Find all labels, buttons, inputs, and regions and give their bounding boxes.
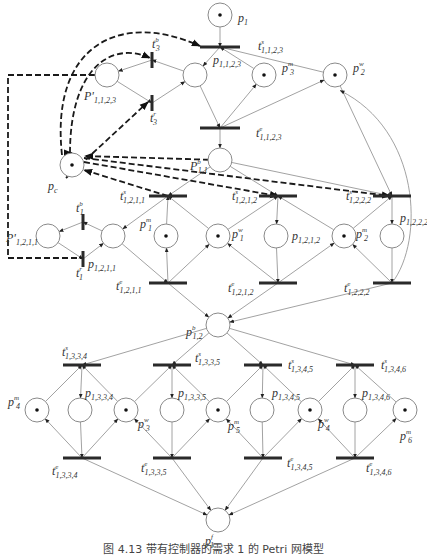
- arc-p_1123-to-te_1123: [200, 86, 220, 128]
- place-pm4: [25, 398, 49, 422]
- label-p1: p1: [237, 11, 248, 27]
- arc-pw3-to-ts_1335: [135, 365, 172, 402]
- arc-te_1334-to-pm4: [45, 419, 82, 458]
- arc-tr3-to-p_1123: [152, 82, 185, 103]
- place-circle: [264, 224, 288, 248]
- token-dot: [308, 408, 312, 412]
- place-pf1: [206, 508, 230, 532]
- place-circle: [343, 398, 367, 422]
- arc-pm5-to-ts_1345: [226, 365, 263, 402]
- token-dot: [124, 408, 128, 412]
- arc-te_1211-to-pw1: [168, 244, 209, 283]
- label-tb3: tb3: [152, 36, 160, 53]
- label-ts_1123: ts1,1,2,3: [258, 38, 283, 55]
- label-p_1334: p1,3,3,4: [84, 386, 113, 402]
- arc-te_1335-to-pm5: [172, 419, 210, 458]
- place-p_1123: [183, 63, 207, 87]
- place-circle: [380, 224, 404, 248]
- label-pw3: pw3: [137, 416, 150, 433]
- arc-te_1211-to-pm1: [167, 248, 168, 283]
- place-p_1222: [380, 224, 404, 248]
- arc-te_1222-to-pw2: [340, 91, 411, 283]
- place-pc: [60, 153, 84, 177]
- arc-p_1345-to-te_1345: [262, 422, 263, 458]
- label-pm6: pm6: [399, 428, 412, 445]
- label-pw1: pw1: [231, 226, 244, 243]
- token-dot: [218, 13, 222, 17]
- place-p_1345: [250, 398, 274, 422]
- label-ts_1335: ts1,3,3,5: [195, 350, 220, 367]
- arc-p_1211-to-te_1211: [122, 244, 168, 283]
- label-te_1335: te1,3,3,5: [141, 460, 166, 477]
- token-dot: [216, 234, 220, 238]
- label-pm2: pm2: [355, 226, 368, 243]
- label-tb1: tb1: [76, 200, 84, 217]
- arc-pw2-to-ts_1222: [340, 86, 392, 196]
- arc-te_1334-to-pw3: [82, 419, 118, 458]
- label-p_1212: p1,2,1,2: [291, 229, 320, 245]
- arc-pp_1123-to-tr3: [117, 81, 152, 103]
- arc-te_1212-to-pm2: [278, 243, 334, 283]
- token-dot: [164, 234, 168, 238]
- arc-te_1211-to-pb12: [168, 283, 209, 317]
- label-te_1212: te1,2,1,2: [228, 280, 253, 297]
- place-pb11: [208, 148, 232, 172]
- labels-layer: p1p1,1,2,3P'1,1,2,3pm3pw2pcPb1,1P'1,2,1,…: [5, 11, 427, 550]
- arc-ts_1212-to-p_1212: [277, 196, 278, 224]
- label-pb12: pb1,2: [185, 324, 203, 341]
- label-pp_1211: P'1,2,1,1: [5, 231, 38, 247]
- label-ts_1334: ts1,3,3,4: [62, 344, 87, 361]
- label-p_1345: p1,3,4,5: [271, 386, 300, 402]
- control-arc-pc-to-ts_1123: [61, 32, 200, 155]
- place-pp_1211: [36, 224, 60, 248]
- token-dot: [216, 408, 220, 412]
- arc-pp_1211-to-tr1: [58, 243, 83, 259]
- arc-te_1335-to-pf1: [172, 458, 211, 510]
- label-p_1346: p1,3,4,6: [361, 386, 390, 402]
- label-te_1345: te1,3,4,5: [287, 455, 312, 472]
- arc-pb12-to-ts_1345: [227, 333, 263, 365]
- place-circle: [68, 398, 92, 422]
- figure-caption: 图 4.13 带有控制器的需求 1 的 Petri 网模型: [0, 540, 427, 556]
- arc-te_1222-to-pm2: [353, 244, 392, 283]
- label-pm4: pm4: [7, 394, 20, 411]
- place-p1: [208, 3, 232, 27]
- place-circle: [95, 63, 119, 87]
- token-dot: [70, 163, 74, 167]
- place-circle: [206, 313, 230, 337]
- arc-pm2-to-ts_1212: [278, 196, 334, 230]
- token-dot: [342, 234, 346, 238]
- label-tr1: tr1: [76, 265, 83, 282]
- token-dot: [262, 73, 266, 77]
- arc-p_1334-to-te_1334: [80, 422, 82, 458]
- label-te_1211: te1,2,1,1: [116, 278, 141, 295]
- arc-te_1345-to-pw4: [263, 419, 302, 458]
- label-te_1334: te1,3,3,4: [52, 463, 77, 480]
- place-circle: [101, 224, 125, 248]
- transitions-layer: [63, 47, 411, 458]
- place-pm5: [206, 398, 230, 422]
- place-pm6: [393, 398, 417, 422]
- arc-pm4-to-ts_1334: [45, 365, 82, 402]
- place-circle: [183, 63, 207, 87]
- label-p_1211: p1,2,1,1: [87, 257, 116, 273]
- arc-te_1123-to-pw2: [220, 80, 324, 128]
- label-ts_1345: ts1,3,4,5: [288, 357, 313, 374]
- label-pm1: pm1: [139, 216, 152, 233]
- arc-te_1212-to-pw1: [227, 243, 278, 283]
- arc-p_1123-to-tb3: [152, 60, 184, 71]
- place-pw3: [114, 398, 138, 422]
- arc-tb3-to-pp_1123: [118, 60, 152, 71]
- place-p_1346: [343, 398, 367, 422]
- label-te_1123: te1,1,2,3: [256, 125, 281, 142]
- place-circle: [206, 508, 230, 532]
- place-circle: [36, 224, 60, 248]
- label-te_1222: te1,2,2,2: [344, 280, 369, 297]
- label-pw4: pw4: [317, 416, 330, 433]
- place-p_1211: [101, 224, 125, 248]
- place-pp_1123: [95, 63, 119, 87]
- token-dot: [403, 408, 407, 412]
- arc-p_1211-to-tb1: [83, 222, 102, 231]
- label-pm3_top: pm3: [281, 60, 294, 77]
